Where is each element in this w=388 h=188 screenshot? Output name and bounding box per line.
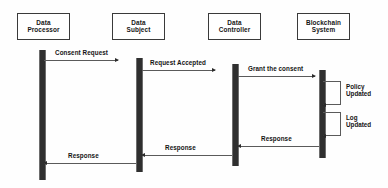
arrow-head-icon [322, 103, 326, 107]
arrow-head-icon [322, 134, 326, 138]
message-label-response-blockchain: Response [261, 136, 292, 142]
message-label-response-controller: Response [165, 145, 196, 151]
actor-label-line2: Subject [127, 27, 151, 34]
arrow-head-icon [115, 58, 119, 62]
message-label-request-accepted: Request Accepted [150, 60, 206, 66]
actor-box-data-processor: DataProcessor [17, 13, 70, 40]
arrow-shaft [238, 76, 315, 77]
self-message-label-line2: Updated [346, 91, 371, 98]
self-message-label-policy-updated: PolicyUpdated [346, 84, 371, 98]
self-message-loop-log-updated [323, 112, 341, 136]
loop-top-segment [323, 81, 341, 82]
actor-label-line2: Controller [219, 27, 251, 34]
arrow-shaft [44, 60, 118, 61]
actor-label-line2: Processor [27, 27, 59, 34]
arrow-shaft [238, 146, 319, 147]
actor-box-data-subject: DataSubject [112, 13, 165, 40]
message-label-response-subject: Response [68, 153, 99, 159]
arrow-shaft [142, 155, 232, 156]
lifeline-bar-data-controller [232, 64, 239, 166]
arrow-shaft [142, 70, 215, 71]
sequence-diagram-canvas: DataProcessorDataSubjectDataControllerBl… [0, 0, 388, 188]
actor-box-data-controller: DataController [208, 13, 261, 40]
arrow-head-icon [43, 161, 47, 165]
message-label-consent-request: Consent Request [55, 50, 108, 56]
message-label-grant-the-consent: Grant the consent [248, 66, 303, 72]
arrow-shaft [44, 163, 136, 164]
actor-label-line2: System [312, 27, 335, 34]
arrow-head-icon [312, 74, 316, 78]
actor-box-blockchain-system: BlockchainSystem [297, 13, 350, 40]
arrow-head-icon [237, 144, 241, 148]
loop-side-segment [340, 81, 341, 105]
arrow-head-icon [212, 68, 216, 72]
self-message-label-log-updated: LogUpdated [346, 115, 371, 129]
loop-side-segment [340, 112, 341, 136]
arrow-head-icon [141, 153, 145, 157]
self-message-loop-policy-updated [323, 81, 341, 105]
loop-top-segment [323, 112, 341, 113]
self-message-label-line2: Updated [346, 122, 371, 129]
